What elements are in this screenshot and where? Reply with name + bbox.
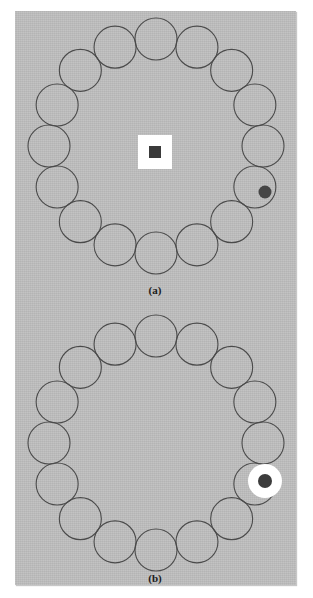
ring-item [28, 422, 70, 464]
ring-item [211, 49, 253, 91]
ring-item [59, 201, 101, 243]
stimulus-canvas [15, 11, 296, 585]
ring-item [234, 84, 276, 126]
ring-item [36, 166, 78, 208]
ring-item [176, 521, 218, 563]
ring-item [94, 521, 136, 563]
stimulus-panel-inner [15, 11, 296, 585]
ring-array-b [28, 315, 284, 571]
fixation-marker-a [138, 135, 172, 169]
ring-item [135, 18, 177, 60]
target-a [259, 186, 272, 199]
ring-item [36, 463, 78, 505]
ring-item [242, 422, 284, 464]
ring-item [36, 84, 78, 126]
ring-item [234, 381, 276, 423]
ring-item [176, 224, 218, 266]
ring-item [135, 315, 177, 357]
ring-item [59, 498, 101, 540]
ring-item [36, 381, 78, 423]
ring-item [94, 323, 136, 365]
ring-item [59, 49, 101, 91]
ring-item [28, 125, 70, 167]
ring-item [211, 498, 253, 540]
target-dot [259, 186, 272, 199]
fixation-inner-square [149, 146, 161, 158]
ring-item [211, 201, 253, 243]
ring-item [242, 125, 284, 167]
target-dot [258, 474, 272, 488]
ring-item [176, 323, 218, 365]
ring-item [234, 166, 276, 208]
panel-label-b: (b) [125, 572, 185, 584]
ring-item [135, 232, 177, 274]
ring-item [176, 26, 218, 68]
target-b [248, 464, 282, 498]
ring-item [59, 346, 101, 388]
stimulus-panel [15, 11, 296, 585]
ring-item [94, 224, 136, 266]
ring-item [94, 26, 136, 68]
panel-label-a: (a) [125, 284, 185, 296]
figure-root: showing the array of rings usedin the se… [0, 0, 313, 598]
ring-item [211, 346, 253, 388]
ring-item [135, 529, 177, 571]
